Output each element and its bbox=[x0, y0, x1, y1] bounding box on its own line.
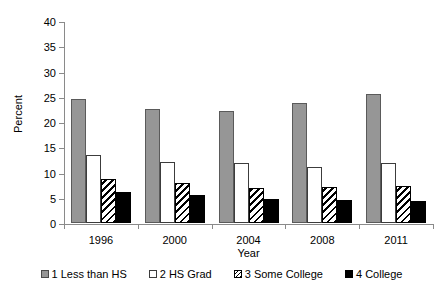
x-axis-tick bbox=[359, 224, 360, 229]
x-axis-tick bbox=[64, 224, 65, 229]
y-axis-tick bbox=[59, 199, 64, 200]
x-axis-tick-label: 2000 bbox=[162, 234, 186, 246]
bar-2011-series-3 bbox=[396, 186, 411, 223]
legend-swatch-icon bbox=[345, 270, 353, 278]
y-axis-tick bbox=[59, 148, 64, 149]
x-axis-tick-label: 1996 bbox=[89, 234, 113, 246]
bar-1996-series-1 bbox=[71, 99, 86, 223]
x-axis-tick-label: 2011 bbox=[384, 234, 408, 246]
legend-label: 4 College bbox=[356, 268, 402, 280]
y-axis-tick-label: 5 bbox=[50, 193, 56, 204]
bar-2011-series-4 bbox=[411, 201, 426, 223]
y-axis-line bbox=[64, 22, 65, 225]
legend-label: 1 Less than HS bbox=[52, 268, 127, 280]
bar-2004-series-4 bbox=[264, 199, 279, 223]
bar-2004-series-2 bbox=[234, 163, 249, 223]
bar-2008-series-4 bbox=[337, 200, 352, 223]
y-axis-tick-label: 40 bbox=[44, 17, 56, 28]
x-axis-title: Year bbox=[64, 247, 433, 259]
bar-2000-series-2 bbox=[160, 162, 175, 223]
y-axis-tick-label: 15 bbox=[44, 143, 56, 154]
y-axis-tick bbox=[59, 98, 64, 99]
y-axis-tick bbox=[59, 123, 64, 124]
y-axis-tick-label: 30 bbox=[44, 67, 56, 78]
bar-1996-series-4 bbox=[116, 192, 131, 223]
bar-2008-series-3 bbox=[322, 187, 337, 223]
bar-2008-series-2 bbox=[307, 167, 322, 223]
y-axis-tick bbox=[59, 73, 64, 74]
bar-2011-series-1 bbox=[366, 94, 381, 223]
plot-area: 051015202530354019962000200420082011 bbox=[64, 22, 433, 224]
legend-swatch-icon bbox=[149, 270, 157, 278]
y-axis-tick bbox=[59, 174, 64, 175]
y-axis-tick bbox=[59, 47, 64, 48]
bar-2000-series-3 bbox=[175, 183, 190, 223]
legend-item-4: 4 College bbox=[345, 268, 402, 280]
y-axis-tick-label: 25 bbox=[44, 92, 56, 103]
legend-swatch-icon bbox=[234, 270, 242, 278]
chart-legend: 1 Less than HS2 HS Grad3 Some College4 C… bbox=[0, 268, 443, 280]
x-axis-tick bbox=[138, 224, 139, 229]
legend-label: 2 HS Grad bbox=[160, 268, 212, 280]
bar-2004-series-1 bbox=[219, 111, 234, 223]
bar-2000-series-1 bbox=[145, 109, 160, 223]
bar-chart: Percent 05101520253035401996200020042008… bbox=[0, 0, 443, 294]
x-axis-tick-label: 2008 bbox=[310, 234, 334, 246]
x-axis-tick bbox=[433, 224, 434, 229]
y-axis-tick-label: 10 bbox=[44, 168, 56, 179]
legend-item-3: 3 Some College bbox=[234, 268, 323, 280]
y-axis-tick bbox=[59, 22, 64, 23]
legend-item-1: 1 Less than HS bbox=[41, 268, 127, 280]
y-axis-tick-label: 20 bbox=[44, 118, 56, 129]
bar-1996-series-3 bbox=[101, 179, 116, 223]
x-axis-line bbox=[64, 224, 433, 225]
y-axis-tick-label: 0 bbox=[50, 219, 56, 230]
bar-2000-series-4 bbox=[190, 195, 205, 223]
x-axis-tick-label: 2004 bbox=[236, 234, 260, 246]
x-axis-tick bbox=[285, 224, 286, 229]
bar-1996-series-2 bbox=[86, 155, 101, 223]
y-axis-title: Percent bbox=[12, 74, 24, 154]
bar-2011-series-2 bbox=[381, 163, 396, 223]
legend-swatch-icon bbox=[41, 270, 49, 278]
y-axis-tick-label: 35 bbox=[44, 42, 56, 53]
bar-2004-series-3 bbox=[249, 188, 264, 223]
legend-label: 3 Some College bbox=[245, 268, 323, 280]
bar-2008-series-1 bbox=[292, 103, 307, 223]
x-axis-tick bbox=[212, 224, 213, 229]
legend-item-2: 2 HS Grad bbox=[149, 268, 212, 280]
